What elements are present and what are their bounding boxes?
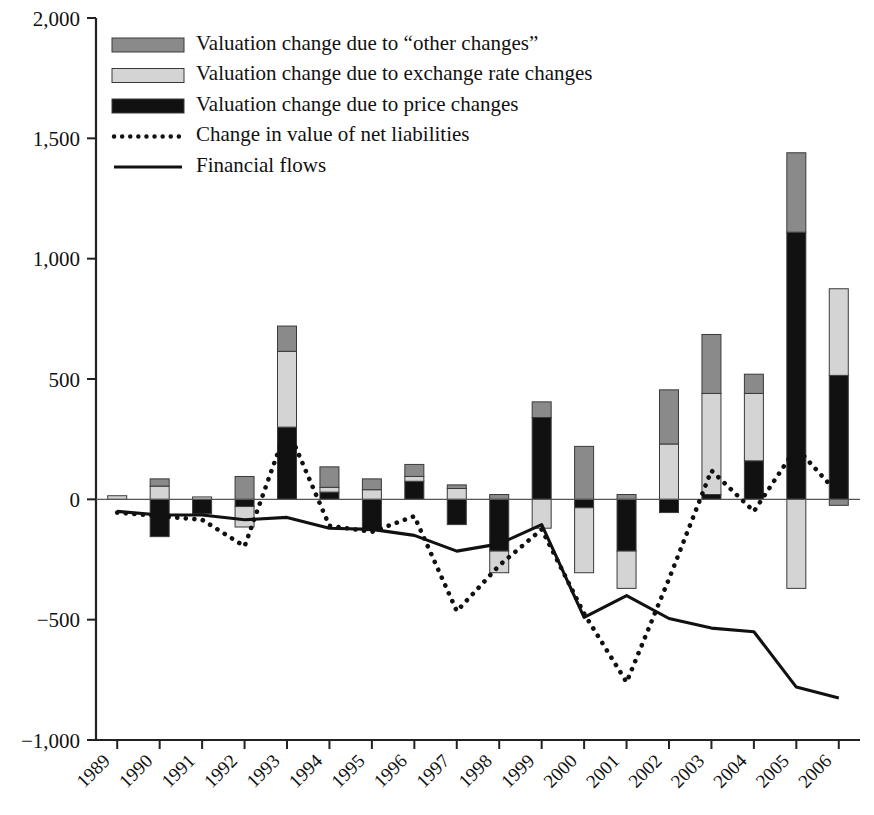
bar-stack bbox=[405, 464, 424, 499]
bar-segment-fx bbox=[320, 487, 339, 492]
chart-figure: −1,000−50005001,0001,5002,000 1989199019… bbox=[0, 0, 874, 815]
bar-segment-fx bbox=[490, 551, 509, 573]
bar-segment-other bbox=[702, 334, 721, 393]
bar-segment-fx bbox=[447, 489, 466, 500]
y-tick-label: −500 bbox=[37, 608, 80, 632]
bar-segment-fx bbox=[235, 507, 254, 527]
chart-canvas: −1,000−50005001,0001,5002,000 1989199019… bbox=[0, 0, 874, 815]
bar-segment-other bbox=[278, 326, 297, 351]
legend-swatch-fx bbox=[112, 69, 184, 83]
legend-label: Valuation change due to price changes bbox=[196, 92, 518, 116]
bar-segment-price bbox=[405, 481, 424, 499]
bar-segment-other bbox=[744, 374, 763, 393]
bar-segment-fx bbox=[829, 289, 848, 376]
bar-segment-fx bbox=[617, 551, 636, 588]
y-tick-label: 1,500 bbox=[33, 127, 80, 151]
bar-segment-other bbox=[490, 495, 509, 500]
y-tick-label: 2,000 bbox=[33, 7, 80, 31]
y-tick-label: −1,000 bbox=[21, 729, 80, 753]
bar-segment-other bbox=[617, 495, 636, 500]
bar-segment-other bbox=[575, 446, 594, 499]
bar-stack bbox=[787, 153, 806, 589]
bar-stack bbox=[702, 334, 721, 499]
bar-segment-price bbox=[362, 499, 381, 530]
bar-segment-fx bbox=[660, 444, 679, 499]
y-tick-label: 500 bbox=[49, 368, 81, 392]
bar-stack bbox=[617, 495, 636, 589]
bar-stack bbox=[362, 479, 381, 531]
bar-segment-price bbox=[193, 499, 212, 513]
bar-segment-price bbox=[617, 499, 636, 551]
bar-segment-fx bbox=[787, 499, 806, 588]
bar-stack bbox=[532, 402, 551, 528]
legend-label: Valuation change due to “other changes” bbox=[196, 31, 538, 55]
bar-segment-other bbox=[787, 153, 806, 232]
bar-segment-other bbox=[150, 479, 169, 486]
bar-segment-price bbox=[447, 499, 466, 524]
bar-segment-price bbox=[660, 499, 679, 512]
bar-segment-other bbox=[320, 467, 339, 487]
bar-stack bbox=[829, 289, 848, 506]
legend-swatch-price bbox=[112, 99, 184, 113]
y-tick-label: 0 bbox=[70, 488, 81, 512]
bar-segment-other bbox=[829, 499, 848, 505]
bar-segment-price bbox=[575, 499, 594, 507]
legend-label: Financial flows bbox=[196, 153, 326, 177]
bar-stack bbox=[320, 467, 339, 499]
bar-segment-other bbox=[532, 402, 551, 418]
y-tick-label: 1,000 bbox=[33, 247, 80, 271]
bar-segment-fx bbox=[405, 476, 424, 481]
bar-segment-price bbox=[744, 461, 763, 500]
bar-segment-fx bbox=[362, 490, 381, 500]
legend-label: Change in value of net liabilities bbox=[196, 122, 470, 146]
bar-segment-other bbox=[405, 464, 424, 476]
bar-segment-price bbox=[702, 495, 721, 500]
bar-segment-other bbox=[362, 479, 381, 490]
bar-stack bbox=[490, 495, 509, 573]
bar-segment-price bbox=[235, 499, 254, 506]
bar-segment-price bbox=[532, 418, 551, 500]
bar-stack bbox=[744, 374, 763, 499]
bar-stack bbox=[278, 326, 297, 499]
bar-segment-fx bbox=[150, 486, 169, 499]
legend-label: Valuation change due to exchange rate ch… bbox=[196, 61, 593, 85]
bar-stack bbox=[447, 485, 466, 525]
bar-segment-other bbox=[447, 485, 466, 489]
bar-segment-price bbox=[320, 492, 339, 499]
bar-segment-fx bbox=[278, 351, 297, 427]
bar-stack bbox=[150, 479, 169, 537]
bar-segment-price bbox=[829, 375, 848, 499]
bar-segment-other bbox=[660, 390, 679, 444]
bar-stack bbox=[660, 390, 679, 513]
bar-segment-fx bbox=[744, 393, 763, 460]
legend-swatch-other bbox=[112, 38, 184, 52]
bar-segment-fx bbox=[575, 508, 594, 573]
bar-segment-other bbox=[235, 476, 254, 499]
bar-stack bbox=[575, 446, 594, 572]
